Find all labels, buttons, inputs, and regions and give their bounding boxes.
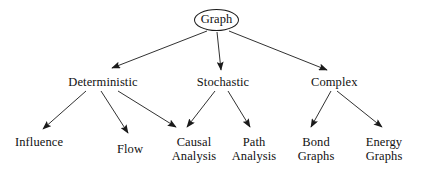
edge-complex-energy <box>337 91 382 127</box>
node-deterministic: Deterministic <box>63 76 143 90</box>
graph-taxonomy-diagram: Graph Deterministic Stochastic Complex I… <box>0 0 421 173</box>
edge-graph-stochastic <box>217 32 221 70</box>
edge-complex-bond <box>311 91 331 127</box>
node-bond-graphs: Bond Graphs <box>293 136 339 163</box>
node-complex: Complex <box>311 76 357 90</box>
node-causal-analysis: Causal Analysis <box>168 136 220 163</box>
edge-stochastic-causal <box>187 91 215 127</box>
node-influence: Influence <box>10 136 68 150</box>
edge-deterministic-flow <box>101 91 128 133</box>
node-graph: Graph <box>194 13 239 27</box>
node-energy-graphs: Energy Graphs <box>358 136 410 163</box>
edge-graph-complex <box>229 31 327 70</box>
edge-stochastic-path <box>228 91 250 127</box>
edge-deterministic-influence <box>43 91 86 129</box>
node-path-analysis: Path Analysis <box>228 136 280 163</box>
node-flow: Flow <box>112 143 148 157</box>
node-stochastic: Stochastic <box>195 76 251 90</box>
edge-deterministic-causal <box>118 91 176 127</box>
edge-graph-deterministic <box>112 31 207 68</box>
